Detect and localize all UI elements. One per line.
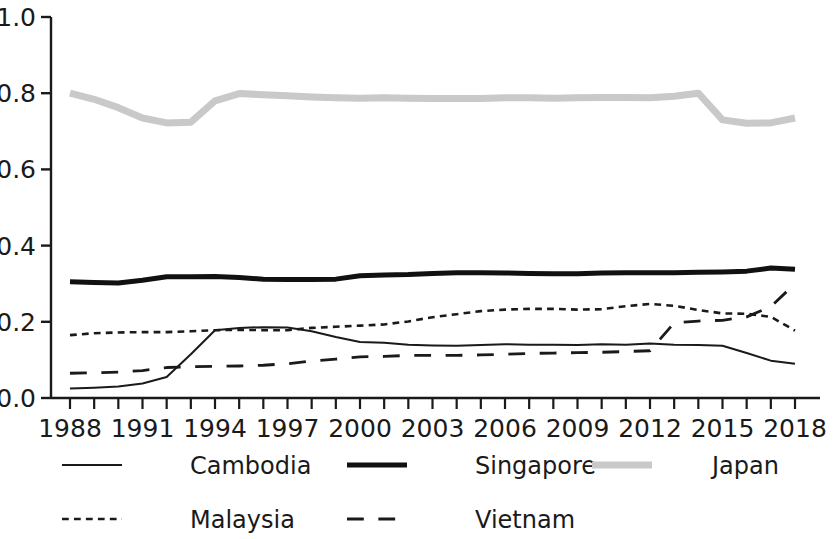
chart-legend: CambodiaSingaporeJapanMalaysiaVietnam <box>62 452 779 534</box>
data-series-group <box>70 93 795 388</box>
y-axis-ticks <box>41 17 51 398</box>
y-tick-label: 0.8 <box>0 79 36 108</box>
y-tick-label: 0.4 <box>0 232 36 261</box>
series-line-cambodia <box>70 327 795 388</box>
y-tick-label: 0.6 <box>0 155 36 184</box>
x-tick-label: 2003 <box>401 414 465 443</box>
chart-canvas: 0.00.20.40.60.81.0 198819911994199720002… <box>0 0 833 539</box>
x-tick-label: 2015 <box>691 414 755 443</box>
series-line-japan <box>70 93 795 123</box>
x-tick-label: 1997 <box>256 414 320 443</box>
y-tick-label: 0.0 <box>0 384 36 413</box>
x-tick-label: 1991 <box>111 414 175 443</box>
series-line-malaysia <box>70 304 795 335</box>
x-tick-label: 2012 <box>618 414 682 443</box>
legend-label-singapore: Singapore <box>475 452 596 480</box>
x-axis-ticks <box>70 398 795 409</box>
x-axis-tick-labels: 1988199119941997200020032006200920122015… <box>38 414 827 443</box>
x-axis-group: 1988199119941997200020032006200920122015… <box>38 398 827 443</box>
legend-label-japan: Japan <box>710 452 779 480</box>
series-line-singapore <box>70 268 795 283</box>
x-tick-label: 1988 <box>38 414 102 443</box>
x-tick-label: 1994 <box>183 414 247 443</box>
legend-label-vietnam: Vietnam <box>475 506 575 534</box>
legend-label-malaysia: Malaysia <box>190 506 295 534</box>
y-axis-group: 0.00.20.40.60.81.0 <box>0 3 51 413</box>
series-line-vietnam <box>70 284 795 374</box>
x-tick-label: 2009 <box>546 414 610 443</box>
x-tick-label: 2018 <box>763 414 827 443</box>
y-tick-label: 0.2 <box>0 308 36 337</box>
line-chart: 0.00.20.40.60.81.0 198819911994199720002… <box>0 0 833 539</box>
x-tick-label: 2000 <box>328 414 392 443</box>
legend-label-cambodia: Cambodia <box>190 452 311 480</box>
y-tick-label: 1.0 <box>0 3 36 32</box>
x-tick-label: 2006 <box>473 414 537 443</box>
y-axis-tick-labels: 0.00.20.40.60.81.0 <box>0 3 36 413</box>
